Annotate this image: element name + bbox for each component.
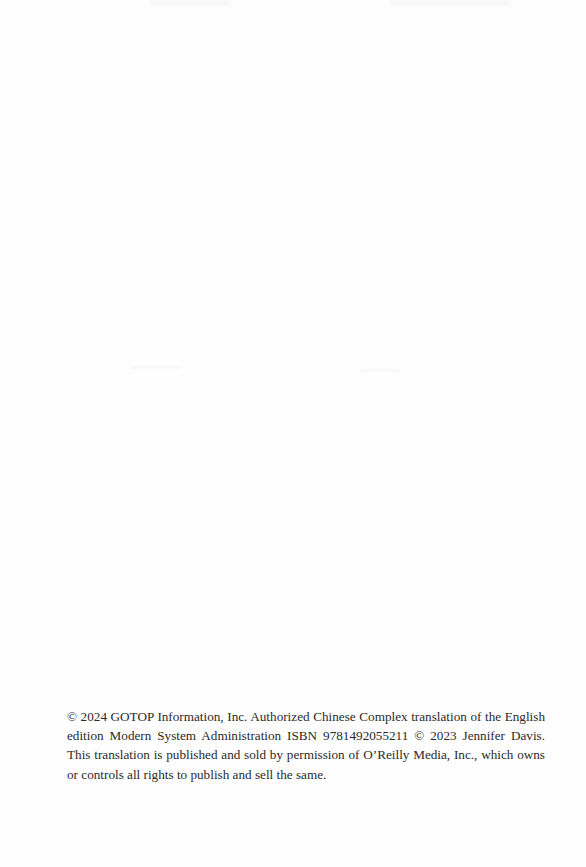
copyright-page: © 2024 GOTOP Information, Inc. Authorize… [0,0,586,867]
show-through-artifact [390,0,510,6]
copyright-notice: © 2024 GOTOP Information, Inc. Authorize… [67,707,545,784]
show-through-artifact [150,0,230,6]
show-through-artifact [360,369,400,372]
show-through-artifact [130,366,180,369]
